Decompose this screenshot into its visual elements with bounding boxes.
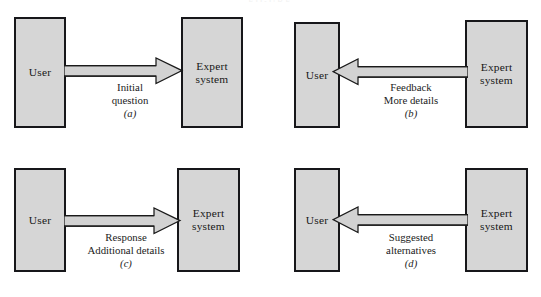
panel-d-arrow-left-icon [332, 206, 468, 234]
expert-system-interaction-diagram: FIGURE User Expert system Initial questi… [0, 0, 541, 297]
panel-a-user-box: User [14, 17, 66, 128]
panel-c-expert-system-label: Expert system [190, 207, 227, 233]
panel-c-user-box: User [14, 168, 66, 272]
panel-a-expert-system-label: Expert system [194, 60, 231, 86]
panel-b-caption: Feedback More details [352, 81, 470, 108]
panel-a-caption: Initial question [82, 81, 178, 108]
panel-d-user-label: User [304, 214, 330, 227]
panel-d-expert-system-box: Expert system [465, 168, 528, 272]
panel-c-expert-system-box: Expert system [177, 168, 240, 272]
panel-d-caption: Suggested alternatives [352, 231, 470, 258]
panel-a-expert-system-box: Expert system [181, 17, 243, 128]
panel-b-expert-system-box: Expert system [465, 20, 528, 128]
panel-c-caption: Response Additional details [66, 231, 186, 258]
panel-d-sub-label: (d) [352, 258, 470, 269]
panel-a-sub-label: (a) [82, 108, 178, 119]
panel-d-expert-system-label: Expert system [478, 207, 515, 233]
clipped-figure-header: FIGURE [0, 0, 541, 2]
panel-c-sub-label: (c) [66, 258, 186, 269]
panel-a-user-label: User [27, 66, 53, 79]
panel-b-expert-system-label: Expert system [478, 61, 515, 87]
panel-b-user-label: User [304, 69, 330, 82]
panel-c-user-label: User [27, 214, 53, 227]
panel-b-sub-label: (b) [352, 108, 470, 119]
